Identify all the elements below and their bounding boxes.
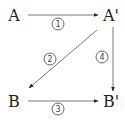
edge-label-1: 1 [52,18,65,31]
edge-label-2: 2 [44,53,57,66]
node-a: A [8,8,20,24]
node-b-prime: B' [103,94,119,110]
diagram-canvas: A A' B B' 1 2 3 4 [0,0,125,122]
node-a-prime: A' [103,8,119,24]
edge-label-4: 4 [96,51,109,64]
node-b: B [8,94,20,110]
arrow-e2 [29,30,97,88]
edge-label-3: 3 [52,103,65,116]
